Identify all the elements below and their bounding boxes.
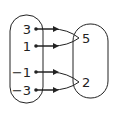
range-oval bbox=[73, 24, 108, 98]
domain-value: −1 bbox=[12, 65, 31, 80]
range-value: 2 bbox=[82, 75, 90, 90]
mapping-diagram: 3 1 −1 −3 5 2 bbox=[0, 0, 113, 119]
domain-value: 3 bbox=[23, 22, 31, 37]
range-values: 5 2 bbox=[82, 31, 90, 90]
domain-dots bbox=[34, 27, 38, 92]
domain-value: −3 bbox=[12, 83, 31, 98]
range-value: 5 bbox=[82, 31, 90, 46]
domain-value: 1 bbox=[23, 39, 31, 54]
arrow-3-to-5 bbox=[36, 29, 79, 38]
domain-values: 3 1 −1 −3 bbox=[12, 22, 31, 98]
